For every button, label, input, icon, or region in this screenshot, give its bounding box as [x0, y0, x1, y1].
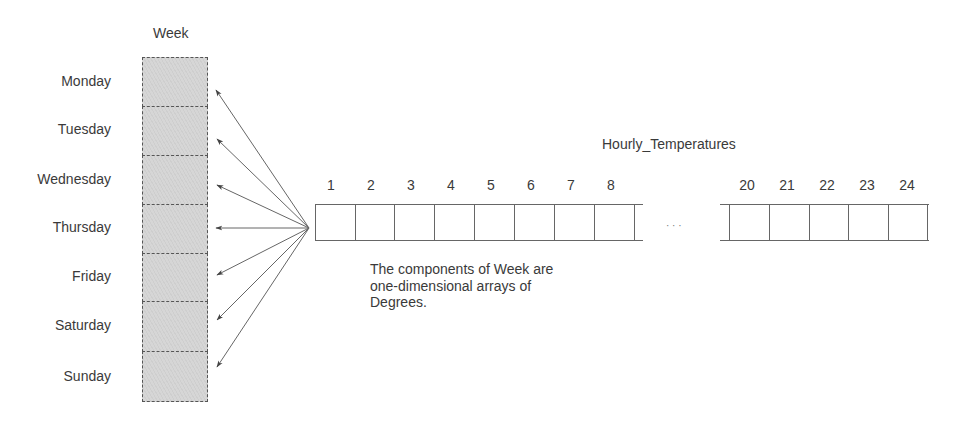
array-cell	[634, 204, 635, 241]
index-label: 6	[511, 177, 551, 193]
array-cell	[594, 204, 634, 241]
index-label: 7	[551, 177, 591, 193]
index-label: 20	[727, 177, 767, 193]
ellipsis: · · ·	[666, 220, 682, 231]
array-cell	[315, 204, 355, 241]
index-label: 24	[887, 177, 927, 193]
array-cell	[474, 204, 514, 241]
array-cell	[729, 204, 769, 241]
array-cell	[355, 204, 395, 241]
array-cell	[769, 204, 809, 241]
array-cell	[394, 204, 434, 241]
array-cell	[514, 204, 554, 241]
array-cell	[554, 204, 594, 241]
index-label: 1	[311, 177, 351, 193]
caption-line: one-dimensional arrays of	[370, 278, 553, 295]
index-label: 3	[391, 177, 431, 193]
index-label: 22	[807, 177, 847, 193]
index-label: 2	[351, 177, 391, 193]
caption: The components of Week are one-dimension…	[370, 261, 553, 311]
array-cell	[434, 204, 474, 241]
index-label: 5	[471, 177, 511, 193]
caption-line: Degrees.	[370, 294, 553, 311]
index-label: 4	[431, 177, 471, 193]
array-cell	[848, 204, 888, 241]
component-title: Hourly_Temperatures	[602, 136, 736, 152]
index-label: 8	[591, 177, 631, 193]
array-cell	[888, 204, 928, 241]
index-label: 23	[847, 177, 887, 193]
index-label: 21	[767, 177, 807, 193]
array-cell	[809, 204, 849, 241]
caption-line: The components of Week are	[370, 261, 553, 278]
